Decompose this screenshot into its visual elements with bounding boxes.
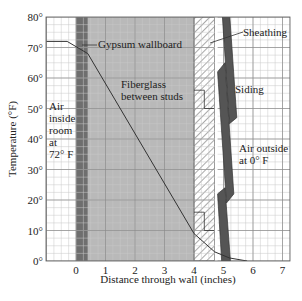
svg-text:room: room [49, 124, 73, 136]
x-tick-label: 6 [250, 264, 256, 276]
y-tick-label: 50° [28, 103, 43, 115]
wall-temperature-diagram: 0°10°20°30°40°50°60°70°80° 01234567 Dist… [0, 0, 302, 301]
svg-text:Air outside: Air outside [239, 142, 288, 154]
y-tick-label: 40° [28, 133, 43, 145]
x-tick-label: 0 [73, 264, 79, 276]
fiberglass-label-line1: Fiberglass [121, 78, 166, 90]
y-tick-label: 30° [28, 164, 43, 176]
svg-text:inside: inside [49, 112, 75, 124]
y-tick-label: 20° [28, 194, 43, 206]
y-axis-ticks: 0°10°20°30°40°50°60°70°80° [28, 11, 43, 267]
svg-text:72° F: 72° F [49, 148, 73, 160]
y-tick-label: 70° [28, 42, 43, 54]
gypsum-label: Gypsum wallboard [98, 38, 183, 50]
svg-text:at: at [49, 136, 57, 148]
sheathing-label: Sheathing [243, 26, 287, 38]
x-tick-label: 7 [280, 264, 286, 276]
siding-label: Siding [235, 83, 264, 95]
svg-text:Air: Air [49, 100, 64, 112]
x-axis-label: Distance through wall (inches) [100, 273, 236, 286]
fiberglass-label-line2: between studs [121, 90, 183, 102]
y-axis-label: Temperature (°F) [6, 101, 19, 177]
y-tick-label: 0° [33, 255, 43, 267]
y-tick-label: 80° [28, 11, 43, 23]
y-tick-label: 60° [28, 72, 43, 84]
y-tick-label: 10° [28, 225, 43, 237]
svg-text:at 0° F: at 0° F [239, 154, 268, 166]
